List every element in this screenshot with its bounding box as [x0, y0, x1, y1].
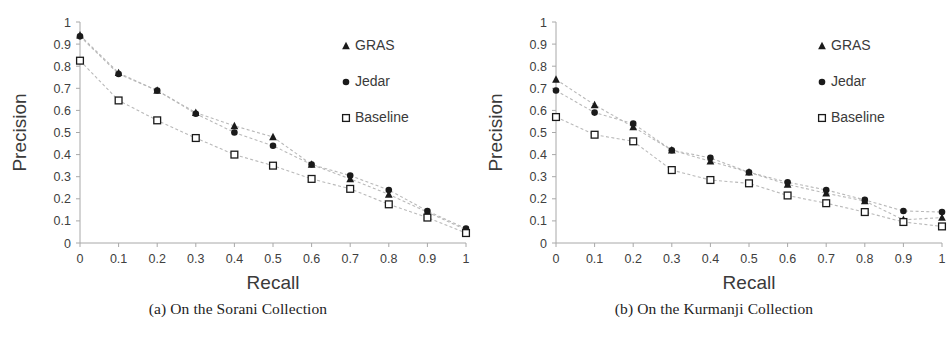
x-axis-title: Recall [723, 272, 776, 293]
legend-entry-baseline: Baseline [819, 109, 885, 125]
x-tick-label: 0.4 [702, 252, 719, 266]
datapoint-baseline-9-marker-square [424, 214, 431, 221]
panel-caption-sorani: (a) On the Sorani Collection [0, 300, 476, 318]
datapoint-jedar-4-marker-circle [707, 155, 714, 162]
datapoint-jedar-7-marker-circle [823, 187, 830, 194]
legend-label-baseline: Baseline [831, 109, 885, 125]
datapoint-jedar-1-marker-circle [115, 71, 122, 78]
plot-area-sorani: 00.10.20.30.40.50.60.70.80.9100.10.20.30… [0, 0, 476, 300]
datapoint-baseline-9-marker-square [900, 219, 907, 226]
y-tick-label: 0.9 [54, 38, 71, 52]
x-tick-label: 0.5 [740, 252, 757, 266]
x-tick-label: 0.2 [625, 252, 642, 266]
series-jedar [77, 33, 470, 232]
legend-gras-marker-triangle [342, 42, 350, 49]
datapoint-baseline-7-marker-square [823, 200, 830, 207]
datapoint-baseline-4-marker-square [231, 151, 238, 158]
datapoint-baseline-4-marker-square [707, 177, 714, 184]
datapoint-baseline-1-marker-square [591, 131, 598, 138]
datapoint-jedar-5-marker-circle [746, 169, 753, 176]
datapoint-baseline-8-marker-square [861, 209, 868, 216]
series-jedar [553, 87, 946, 215]
datapoint-baseline-10-marker-square [939, 223, 946, 230]
x-tick-label: 0.4 [226, 252, 243, 266]
datapoint-baseline-10-marker-square [463, 230, 470, 237]
legend-baseline-marker-square [819, 115, 826, 122]
y-tick-label: 0.4 [530, 148, 547, 162]
datapoint-jedar-2-marker-circle [154, 87, 161, 94]
datapoint-baseline-6-marker-square [784, 192, 791, 199]
y-axis-title: Precision [485, 93, 506, 171]
datapoint-jedar-4-marker-circle [231, 129, 238, 136]
datapoint-baseline-6-marker-square [308, 176, 315, 183]
datapoint-jedar-10-marker-circle [939, 209, 946, 216]
y-tick-label: 1 [540, 16, 547, 30]
datapoint-jedar-8-marker-circle [862, 197, 869, 204]
x-tick-label: 0.1 [110, 252, 127, 266]
x-tick-label: 0.5 [264, 252, 281, 266]
datapoint-jedar-6-marker-circle [308, 161, 315, 168]
x-tick-label: 0.9 [895, 252, 912, 266]
legend-entry-baseline: Baseline [343, 109, 409, 125]
legend-label-baseline: Baseline [355, 109, 409, 125]
y-tick-label: 0.1 [530, 214, 547, 228]
datapoint-baseline-3-marker-square [668, 167, 675, 174]
series-line-gras [80, 35, 466, 229]
legend-baseline-marker-square [343, 115, 350, 122]
datapoint-baseline-1-marker-square [115, 97, 122, 104]
y-tick-label: 0.5 [530, 126, 547, 140]
y-tick-label: 0.2 [530, 192, 547, 206]
datapoint-baseline-0-marker-square [553, 114, 560, 121]
y-tick-label: 0.7 [530, 82, 547, 96]
datapoint-jedar-1-marker-circle [591, 109, 598, 116]
legend-label-jedar: Jedar [831, 73, 866, 89]
datapoint-jedar-0-marker-circle [553, 87, 560, 94]
datapoint-gras-5-marker-triangle [269, 133, 277, 140]
x-tick-label: 0.9 [419, 252, 436, 266]
datapoint-baseline-3-marker-square [192, 135, 199, 142]
legend-entry-gras: GRAS [342, 37, 395, 53]
y-tick-label: 0.3 [54, 170, 71, 184]
x-tick-label: 0.6 [779, 252, 796, 266]
y-tick-label: 0.3 [530, 170, 547, 184]
legend-jedar-marker-circle [343, 79, 350, 86]
x-tick-label: 0.8 [856, 252, 873, 266]
y-tick-label: 0.4 [54, 148, 71, 162]
y-tick-label: 0 [64, 237, 71, 251]
y-axis-title: Precision [9, 93, 30, 171]
y-tick-label: 0.8 [54, 60, 71, 74]
datapoint-baseline-8-marker-square [385, 201, 392, 208]
legend-label-gras: GRAS [355, 37, 395, 53]
x-tick-label: 1 [463, 252, 470, 266]
y-tick-label: 0.1 [54, 214, 71, 228]
x-tick-label: 0.7 [818, 252, 835, 266]
legend-entry-jedar: Jedar [343, 73, 391, 89]
datapoint-jedar-8-marker-circle [386, 187, 393, 194]
precision-recall-chart-sorani: 00.10.20.30.40.50.60.70.80.9100.10.20.30… [0, 0, 476, 300]
x-tick-label: 0.8 [380, 252, 397, 266]
datapoint-jedar-7-marker-circle [347, 172, 354, 179]
series-gras [552, 75, 946, 223]
x-tick-label: 0 [553, 252, 560, 266]
series-gras [76, 31, 470, 233]
precision-recall-chart-kurmanji: 00.10.20.30.40.50.60.70.80.9100.10.20.30… [476, 0, 952, 300]
datapoint-jedar-9-marker-circle [424, 208, 431, 215]
y-tick-label: 0.9 [530, 38, 547, 52]
datapoint-jedar-2-marker-circle [630, 120, 637, 127]
x-axis-title: Recall [247, 272, 300, 293]
y-tick-label: 0.5 [54, 126, 71, 140]
x-tick-label: 0 [77, 252, 84, 266]
datapoint-baseline-7-marker-square [347, 185, 354, 192]
datapoint-jedar-9-marker-circle [900, 208, 907, 215]
x-tick-label: 0.3 [663, 252, 680, 266]
x-tick-label: 0.1 [586, 252, 603, 266]
legend-entry-jedar: Jedar [819, 73, 867, 89]
datapoint-baseline-5-marker-square [270, 162, 277, 169]
y-tick-label: 0.8 [530, 60, 547, 74]
datapoint-jedar-3-marker-circle [193, 110, 200, 117]
x-tick-label: 0.3 [187, 252, 204, 266]
datapoint-baseline-2-marker-square [630, 138, 637, 145]
datapoint-baseline-0-marker-square [77, 57, 84, 64]
series-line-jedar [80, 36, 466, 228]
chart-panel-kurmanji: 00.10.20.30.40.50.60.70.80.9100.10.20.30… [476, 0, 952, 357]
